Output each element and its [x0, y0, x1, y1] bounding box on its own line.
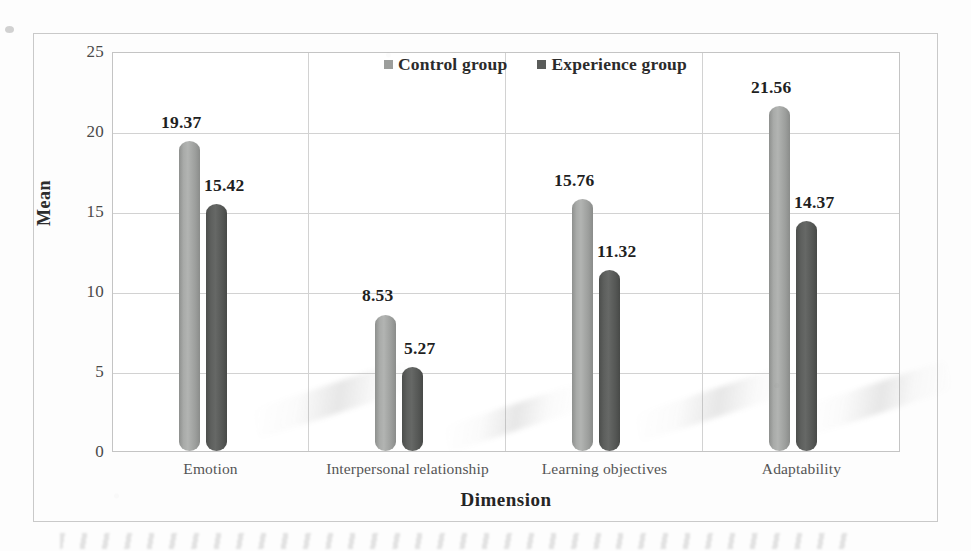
- bar-group: 21.56 14.37: [703, 53, 901, 451]
- y-axis-tick: 0: [64, 442, 104, 462]
- x-axis-tick: Learning objectives: [506, 460, 703, 486]
- square-marker-icon: [384, 60, 393, 69]
- legend-label: Control group: [398, 54, 507, 75]
- legend-label: Experience group: [551, 54, 687, 75]
- bar-control-group[interactable]: [179, 141, 200, 451]
- bar-value-label: 11.32: [597, 241, 636, 262]
- x-axis-tick: Emotion: [112, 460, 309, 486]
- scan-artifact-speck: [5, 26, 14, 33]
- legend-entry-control-group[interactable]: Control group: [384, 54, 507, 75]
- y-axis-tick-labels: 25 20 15 10 5 0: [52, 52, 104, 452]
- bar-group: 15.76 11.32: [506, 53, 702, 451]
- bar-experience-group[interactable]: [599, 270, 620, 451]
- x-axis-tick: Interpersonal relationship: [309, 460, 506, 486]
- y-axis-tick: 25: [64, 42, 104, 62]
- bar-value-label: 19.37: [161, 112, 201, 133]
- square-marker-icon: [537, 60, 546, 69]
- bar-experience-group[interactable]: [402, 367, 423, 451]
- scanned-page-background: Mean 25 20 15 10 5 0 19.37 15.42: [0, 0, 971, 551]
- plot-area: 19.37 15.42 8.53 5.27 15.76 11.32: [112, 52, 900, 452]
- bar-value-label: 15.76: [554, 170, 594, 191]
- bar-value-label: 14.37: [794, 192, 834, 213]
- bar-value-label: 8.53: [362, 285, 393, 306]
- bar-group: 19.37 15.42: [113, 53, 308, 451]
- legend-entry-experience-group[interactable]: Experience group: [537, 54, 687, 75]
- y-axis-tick: 5: [64, 362, 104, 382]
- scan-artifact-smudge: [60, 533, 860, 549]
- x-axis-tick: Adaptability: [703, 460, 900, 486]
- x-axis-title: Dimension: [112, 489, 900, 511]
- bar-experience-group[interactable]: [206, 204, 227, 451]
- y-axis-tick: 15: [64, 202, 104, 222]
- y-axis-tick: 20: [64, 122, 104, 142]
- bar-experience-group[interactable]: [796, 221, 817, 451]
- bar-control-group[interactable]: [572, 199, 593, 451]
- bars-layer: 19.37 15.42 8.53 5.27 15.76 11.32: [113, 53, 899, 451]
- x-axis-tick-labels: Emotion Interpersonal relationship Learn…: [112, 460, 900, 486]
- bar-group: 8.53 5.27: [309, 53, 505, 451]
- bar-value-label: 21.56: [751, 77, 791, 98]
- bar-value-label: 5.27: [404, 338, 435, 359]
- bar-control-group[interactable]: [769, 106, 790, 451]
- bar-value-label: 15.42: [204, 175, 244, 196]
- y-axis-tick: 10: [64, 282, 104, 302]
- bar-control-group[interactable]: [375, 315, 396, 452]
- legend: Control group Experience group: [384, 54, 687, 75]
